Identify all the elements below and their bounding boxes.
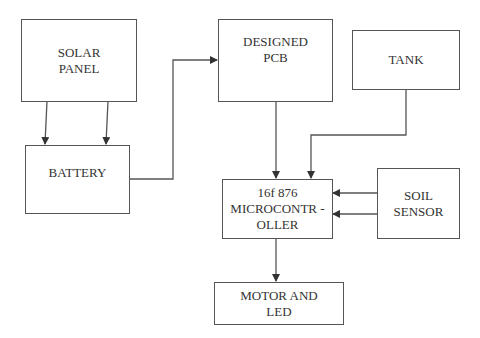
arrow-solar-to-battery-2 [106,101,108,144]
block-label: TANK [388,52,423,68]
block-designed-pcb: DESIGNED PCB [218,19,333,102]
block-label: 16f 876 MICROCONTR - OLLER [230,185,324,233]
block-label: DESIGNED PCB [243,34,308,66]
arrow-battery-to-pcb [129,60,217,179]
block-soil-sensor: SOIL SENSOR [377,168,460,239]
block-solar-panel: SOLAR PANEL [21,19,137,102]
arrow-solar-to-battery-1 [45,101,47,144]
block-battery: BATTERY [25,145,130,214]
block-label: BATTERY [49,165,107,181]
block-label: SOLAR PANEL [58,45,101,77]
block-tank: TANK [352,30,460,90]
block-label: MOTOR AND LED [240,288,317,320]
block-motor-led: MOTOR AND LED [214,282,344,325]
arrow-tank-to-mcu [311,89,406,178]
block-diagram: SOLAR PANEL BATTERY DESIGNED PCB TANK 16… [0,0,480,338]
block-microcontroller: 16f 876 MICROCONTR - OLLER [222,179,333,239]
block-label: SOIL SENSOR [394,188,444,220]
